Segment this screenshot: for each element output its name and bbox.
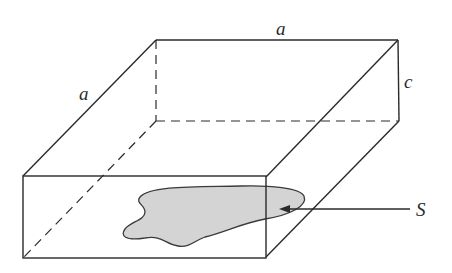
label-height-c: c — [404, 71, 413, 92]
top-right-edge — [266, 40, 398, 177]
back-right-vertical-edge — [398, 40, 399, 121]
label-top-edge-a: a — [276, 18, 286, 39]
label-left-edge-a: a — [79, 83, 89, 104]
surface-s-region — [123, 186, 304, 247]
top-left-edge — [23, 40, 156, 176]
box-diagram: a a c S — [0, 0, 452, 273]
label-surface-s: S — [416, 199, 426, 220]
